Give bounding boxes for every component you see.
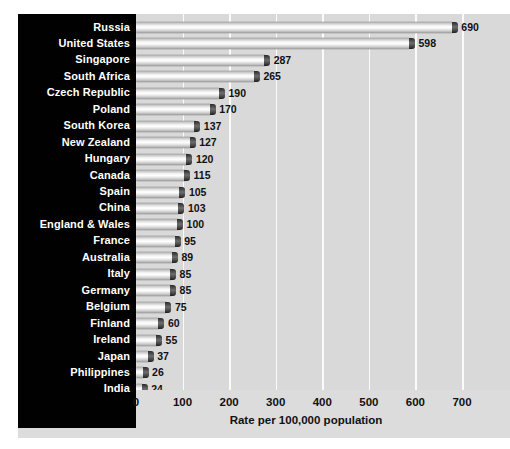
bar-row[interactable]: 690 (136, 22, 510, 33)
bar[interactable] (136, 22, 452, 33)
bar-end-cap (156, 335, 162, 346)
category-label-panel: RussiaUnited StatesSingaporeSouth Africa… (18, 14, 136, 428)
x-tick-label: 100 (173, 396, 192, 408)
category-label: Czech Republic (18, 87, 130, 98)
bar-value-label: 190 (228, 87, 246, 100)
category-label: Spain (18, 186, 130, 197)
bar-value-label: 103 (188, 202, 206, 215)
bar-row[interactable]: 265 (136, 71, 510, 82)
x-axis: Rate per 100,000 population 010020030040… (136, 390, 510, 438)
category-label: Italy (18, 268, 130, 279)
bar-value-label: 24 (151, 383, 163, 390)
bar-end-cap (409, 38, 415, 49)
bar-value-label: 105 (189, 186, 207, 199)
bar[interactable] (136, 269, 171, 280)
category-label: China (18, 202, 130, 213)
category-label: South Africa (18, 71, 130, 82)
bar[interactable] (136, 71, 254, 82)
bar-end-cap (172, 252, 178, 263)
bar-row[interactable]: 127 (136, 137, 510, 148)
bar-row[interactable]: 85 (136, 285, 510, 296)
bar-value-label: 120 (196, 153, 214, 166)
category-label: Canada (18, 170, 130, 181)
bar-row[interactable]: 100 (136, 219, 510, 230)
bar[interactable] (136, 219, 178, 230)
bar-value-label: 127 (199, 136, 217, 149)
bar-row[interactable]: 137 (136, 121, 510, 132)
bar-row[interactable]: 170 (136, 104, 510, 115)
bar-end-cap (452, 22, 458, 33)
x-tick-label: 700 (452, 396, 471, 408)
bar-value-label: 55 (166, 334, 178, 347)
bar-end-cap (179, 187, 185, 198)
bar[interactable] (136, 302, 166, 313)
bar-row[interactable]: 60 (136, 318, 510, 329)
bar-end-cap (186, 154, 192, 165)
category-label: England & Wales (18, 219, 130, 230)
bar-value-label: 75 (175, 301, 187, 314)
x-tick-label: 0 (133, 396, 139, 408)
bar-value-label: 265 (263, 70, 281, 83)
bar-row[interactable]: 89 (136, 252, 510, 263)
category-label: France (18, 235, 130, 246)
bar[interactable] (136, 121, 195, 132)
bar-value-label: 95 (184, 235, 196, 248)
bar[interactable] (136, 55, 265, 66)
bar[interactable] (136, 137, 190, 148)
category-label: Finland (18, 318, 130, 329)
bar-row[interactable]: 75 (136, 302, 510, 313)
bar-row[interactable]: 55 (136, 335, 510, 346)
x-tick-label: 600 (406, 396, 425, 408)
bar[interactable] (136, 154, 187, 165)
bar[interactable] (136, 203, 179, 214)
bar-row[interactable]: 115 (136, 170, 510, 181)
bar-value-label: 287 (274, 54, 292, 67)
category-label: United States (18, 38, 130, 49)
bar[interactable] (136, 104, 210, 115)
bar-row[interactable]: 287 (136, 55, 510, 66)
bar-end-cap (177, 219, 183, 230)
bar-value-label: 85 (180, 268, 192, 281)
bar[interactable] (136, 252, 172, 263)
bar-end-cap (170, 285, 176, 296)
bar[interactable] (136, 335, 157, 346)
bar-row[interactable]: 105 (136, 187, 510, 198)
x-tick-label: 500 (359, 396, 378, 408)
category-label: Philippines (18, 367, 130, 378)
category-label: Russia (18, 22, 130, 33)
bar[interactable] (136, 88, 219, 99)
bar-value-label: 170 (219, 103, 237, 116)
bar-row[interactable]: 598 (136, 38, 510, 49)
bar-end-cap (170, 269, 176, 280)
bar[interactable] (136, 38, 409, 49)
bar-row[interactable]: 103 (136, 203, 510, 214)
x-tick-label: 300 (266, 396, 285, 408)
bar[interactable] (136, 170, 185, 181)
category-label: Germany (18, 285, 130, 296)
bar-value-label: 137 (204, 120, 222, 133)
bar-value-label: 89 (181, 251, 193, 264)
bar-value-label: 690 (461, 21, 479, 34)
x-tick-label: 200 (220, 396, 239, 408)
bar-value-label: 85 (180, 284, 192, 297)
bar-row[interactable]: 190 (136, 88, 510, 99)
category-label: India (18, 383, 130, 394)
x-axis-title: Rate per 100,000 population (136, 414, 476, 426)
bar-row[interactable]: 85 (136, 269, 510, 280)
category-label: Poland (18, 104, 130, 115)
bar-value-label: 100 (187, 218, 205, 231)
figure-margin-top (0, 0, 510, 14)
bar-row[interactable]: 95 (136, 236, 510, 247)
bar-value-label: 598 (418, 37, 436, 50)
bar[interactable] (136, 351, 148, 362)
figure-margin-left (0, 0, 18, 449)
bar[interactable] (136, 187, 180, 198)
bar[interactable] (136, 318, 159, 329)
x-tick-label: 400 (313, 396, 332, 408)
bar[interactable] (136, 236, 175, 247)
bar-row[interactable]: 26 (136, 367, 510, 378)
figure-margin-bottom (0, 438, 510, 449)
bar[interactable] (136, 285, 171, 296)
bar-row[interactable]: 120 (136, 154, 510, 165)
bar-row[interactable]: 37 (136, 351, 510, 362)
